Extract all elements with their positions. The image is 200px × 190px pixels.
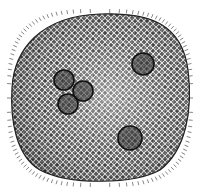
spine: [51, 179, 52, 183]
spine: [43, 177, 45, 181]
spine: [13, 149, 17, 151]
spine: [61, 11, 62, 15]
spine: [138, 11, 139, 15]
spine: [56, 180, 57, 184]
spine: [151, 178, 153, 182]
spine: [182, 41, 185, 43]
spine: [155, 16, 157, 20]
spine: [180, 156, 183, 158]
spine: [26, 167, 29, 170]
spine: [19, 35, 22, 37]
spine: [185, 145, 189, 147]
spine: [26, 26, 29, 29]
spine: [183, 45, 187, 47]
spine: [12, 49, 16, 51]
spine: [168, 24, 171, 27]
spine: [9, 132, 13, 133]
spine: [151, 14, 153, 18]
spine: [182, 153, 185, 155]
spine: [73, 10, 74, 14]
spine: [126, 182, 127, 186]
spine: [187, 137, 191, 138]
spine: [21, 32, 24, 35]
spine: [56, 12, 57, 16]
spine: [29, 24, 32, 27]
spine: [176, 32, 179, 35]
spine: [12, 145, 16, 147]
spine: [17, 156, 20, 158]
spine: [43, 16, 45, 20]
spine: [35, 173, 37, 176]
spine: [178, 159, 181, 161]
spine: [132, 10, 133, 14]
spine: [138, 181, 139, 185]
spine: [171, 26, 174, 29]
spine: [15, 153, 18, 155]
spine: [24, 29, 27, 32]
spine: [188, 69, 192, 70]
spine: [178, 35, 181, 37]
spine: [51, 13, 52, 17]
spine: [171, 167, 174, 170]
spine: [29, 169, 32, 172]
spine: [147, 13, 148, 17]
spine: [187, 58, 191, 59]
spine: [73, 182, 74, 186]
inclusion-upper-right: [132, 53, 154, 75]
spine: [67, 182, 68, 186]
inclusion-lower-right: [118, 126, 142, 150]
spine: [155, 177, 157, 181]
spine: [32, 171, 34, 174]
spine: [176, 162, 179, 165]
spine: [24, 165, 27, 168]
spine: [8, 69, 12, 70]
spine: [67, 10, 68, 14]
spine: [47, 14, 49, 18]
spine: [47, 178, 49, 182]
spine: [162, 173, 164, 176]
spine: [39, 17, 41, 20]
spine: [11, 141, 15, 142]
spine: [19, 159, 22, 161]
spine: [61, 181, 62, 185]
spine: [13, 45, 17, 47]
organism-figure: [0, 0, 200, 190]
spine: [168, 169, 171, 172]
spine: [11, 54, 15, 55]
spine: [188, 126, 192, 127]
spine: [9, 63, 13, 64]
spine: [17, 38, 20, 40]
spine: [35, 19, 37, 22]
inclusion-cluster-a: [54, 70, 74, 90]
inclusion-cluster-c: [58, 94, 78, 114]
spine: [126, 10, 127, 14]
spine: [180, 38, 183, 40]
spine: [159, 175, 161, 178]
spine: [186, 141, 190, 142]
spine: [165, 21, 167, 24]
spine: [9, 137, 13, 138]
spine: [147, 179, 148, 183]
spine: [174, 29, 177, 32]
spine: [39, 175, 41, 178]
spine: [185, 49, 189, 51]
spine: [9, 58, 13, 59]
spine: [183, 149, 187, 151]
spine: [143, 12, 144, 16]
spine: [188, 63, 192, 64]
spine: [15, 41, 18, 43]
spine: [165, 171, 167, 174]
spine: [32, 21, 34, 24]
spine: [162, 19, 164, 22]
spine: [174, 165, 177, 168]
spine: [8, 126, 12, 127]
spine: [143, 180, 144, 184]
spine: [186, 54, 190, 55]
spine: [188, 132, 192, 133]
spine: [21, 162, 24, 165]
spine: [132, 182, 133, 186]
spine: [159, 17, 161, 20]
illustration: Spherical single-celled organism illustr…: [0, 0, 200, 190]
